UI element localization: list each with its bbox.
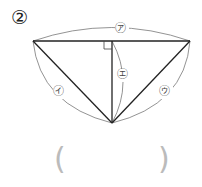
label-top-side: ㋐ xyxy=(115,23,126,34)
label-left-side: ㋑ xyxy=(53,86,64,97)
arc-top xyxy=(33,28,190,42)
label-height: ㋓ xyxy=(117,69,128,80)
label-right-side: ㋒ xyxy=(159,86,170,97)
triangle-left-side xyxy=(33,41,112,123)
answer-open-paren: ( xyxy=(54,144,66,174)
answer-close-paren: ) xyxy=(158,144,170,174)
right-angle-mark xyxy=(104,41,112,49)
problem-number: ② xyxy=(11,8,28,27)
answer-box[interactable]: ( ) xyxy=(52,144,172,184)
